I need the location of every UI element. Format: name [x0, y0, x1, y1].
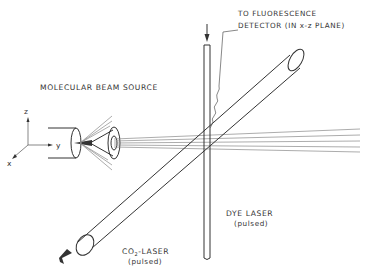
dye-laser-mode-label: (pulsed): [234, 219, 268, 228]
dye-laser-label: DYE LASER: [226, 209, 273, 218]
co2-laser-arrow-icon: [59, 249, 72, 264]
axis-z-label: z: [24, 107, 28, 116]
dye-laser-beam: [204, 24, 210, 260]
axis-y-label: y: [56, 141, 61, 150]
axis-x-label: x: [7, 159, 12, 168]
dye-laser-arrow-icon: [205, 34, 210, 42]
coordinate-axes: z y x: [7, 107, 61, 168]
source-label: MOLECULAR BEAM SOURCE: [40, 83, 158, 92]
detector-label-line1: TO FLUORESCENCE: [237, 9, 317, 18]
co2-laser-label: CO2-LASER: [122, 247, 169, 257]
experimental-setup-diagram: z y x: [0, 0, 385, 274]
detector-label-line2: DETECTOR (IN x-z PLANE): [238, 21, 345, 30]
co2-laser-beam: [59, 47, 307, 264]
molecular-beam: [114, 129, 360, 152]
co2-laser-mode-label: (pulsed): [128, 257, 162, 266]
